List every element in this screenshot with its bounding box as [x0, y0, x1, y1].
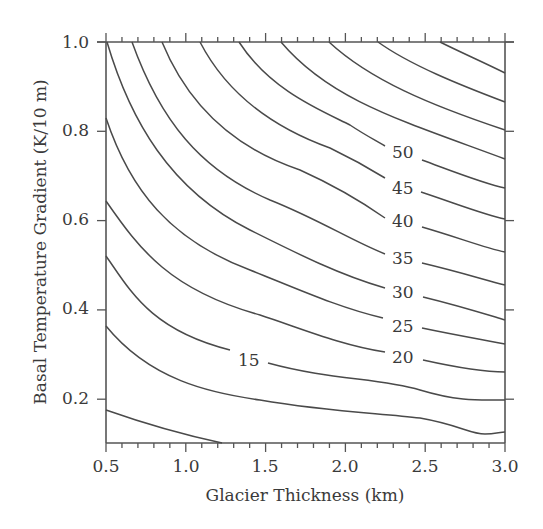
y-tick-label: 0.2: [62, 388, 89, 408]
contour-label-45: 45: [392, 178, 414, 198]
contour-line-35: [132, 42, 505, 285]
x-tick-label: 1.5: [251, 456, 278, 476]
contour-chart: 50 45 40 35 30 25 20 15 0.5 1.0 1.5 2.0 …: [0, 0, 543, 529]
contour-labels: 50 45 40 35 30 25 20 15: [238, 142, 414, 370]
contour-label-25: 25: [392, 316, 414, 336]
contour-label-40: 40: [392, 211, 414, 231]
contour-line-60: [329, 42, 505, 130]
contour-line-65: [378, 42, 505, 102]
y-tick-label: 0.8: [62, 120, 89, 140]
contour-line-45: [200, 42, 505, 219]
y-tick-label: 0.6: [62, 209, 89, 229]
contour-line-15: [106, 256, 505, 400]
y-tick-label: 1.0: [62, 32, 89, 52]
y-axis-title: Basal Temperature Gradient (K/10 m): [30, 79, 50, 404]
contour-label-20: 20: [392, 347, 414, 367]
contour-line-20: [106, 201, 505, 372]
contour-label-50: 50: [392, 142, 414, 162]
contour-label-15: 15: [238, 350, 260, 370]
x-tick-label: 1.0: [172, 456, 199, 476]
contour-line-30: [107, 42, 505, 320]
contour-line-25: [106, 118, 505, 344]
x-tick-label: 2.5: [411, 456, 438, 476]
x-tick-label: 0.5: [92, 456, 119, 476]
y-axis-ticks: [97, 42, 514, 399]
y-tick-labels: 0.2 0.4 0.6 0.8 1.0: [62, 32, 89, 408]
contour-line-10: [106, 326, 505, 434]
contour-line-5: [106, 410, 222, 443]
contour-lines: [106, 42, 505, 443]
x-tick-label: 2.0: [331, 456, 358, 476]
contour-line-70: [440, 42, 505, 73]
x-tick-label: 3.0: [491, 456, 518, 476]
y-tick-label: 0.4: [62, 298, 89, 318]
contour-line-40: [162, 42, 505, 252]
contour-label-30: 30: [392, 282, 414, 302]
contour-line-50: [239, 42, 505, 188]
x-tick-labels: 0.5 1.0 1.5 2.0 2.5 3.0: [92, 456, 518, 476]
contour-label-35: 35: [392, 248, 414, 268]
x-axis-ticks: [106, 33, 505, 452]
x-axis-title: Glacier Thickness (km): [206, 485, 405, 505]
